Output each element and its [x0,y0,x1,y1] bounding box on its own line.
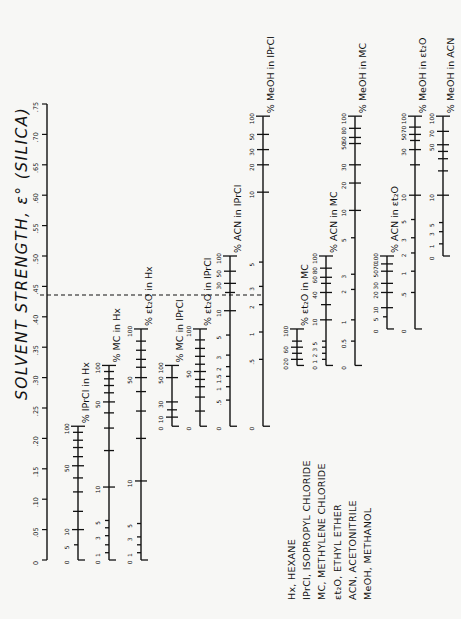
scale-tick-label: 40 [312,291,318,299]
scale-tick-label: 1 [401,272,407,276]
scale-title: % MeOH in ACN [445,38,456,113]
scale-tick-label: 100 [401,113,407,124]
scale-tick-label: 1 [341,320,347,324]
scale-tick-label: 5 [401,220,407,224]
scale-tick-label: 50 [186,370,192,378]
scale-tick-label: 1 [312,360,318,364]
scale-tick-label: 1 [95,553,101,557]
scale-tick-label: 5 [312,341,318,345]
scale-tick-label: 10 [95,486,101,494]
scale-tick-label: 5 [216,335,222,339]
scale-tick-label: 10 [158,416,164,424]
scale-acn-mc: 0123510406080100% ACN in MC [312,191,339,370]
scale-tick-label: 100 [312,253,318,264]
scale-tick-label: 1 [127,553,133,557]
main-axis-tick-label: .70 [32,132,40,142]
scale-tick-label: 2 [249,305,255,309]
scale-tick-label: 60 [312,276,318,284]
scale-tick-label: 3 [216,355,222,359]
scale-tick-label: 0 [158,427,164,431]
scale-tick-label: 5 [127,524,133,528]
chart-title: SOLVENT STRENGTH, ε° (SILICA) [13,107,31,400]
scale-title: % MeOH in MC [357,43,368,114]
scale-tick-label: 0 [341,366,347,370]
main-axis-tick-label: .25 [32,406,40,416]
scale-tick-label: 100 [249,113,255,124]
scale-tick-label: 1.5 [216,374,222,384]
scale-tick-label: 0 [401,329,407,333]
scale-tick-label: 80 [341,127,347,135]
scale-tick-label: 2 [216,367,222,371]
scale-et2o-iprcl: 050100% εt₂O in IPrCl [186,258,213,431]
scale-tick-label: 0.5 [341,339,347,349]
scale-tick-label: 50 [216,270,222,278]
scale-tick-label: .5 [249,359,255,365]
scale-tick-label: 1 [249,332,255,336]
nomogram-chart: SOLVENT STRENGTH, ε° (SILICA) 0.05.10.15… [0,0,461,619]
scale-tick-label: 100 [341,113,347,124]
scale-tick-label: 100 [373,253,379,264]
scale-tick-label: 0 [373,329,379,333]
scale-tick-label: 0 [95,560,101,564]
scale-meoh-acn: 0135105070100% MeOH in ACN [429,38,456,261]
scale-tick-label: 0 [64,560,70,564]
scale-tick-label: 60 [341,136,347,144]
scale-title: % εt₂O in MC [299,264,310,326]
scale-et2o-hx: 01351050100% εt₂O in Hx [127,266,154,564]
scale-tick-label: 30 [401,148,407,156]
scale-tick-label: 10 [429,194,435,202]
scale-tick-label: 5 [429,223,435,227]
scale-title: % ACN in MC [328,191,339,253]
scale-tick-label: 30 [158,400,164,408]
scale-tick-label: 1 [429,244,435,248]
scale-tick-label: 20 [283,358,289,366]
main-axis-tick-label: .50 [32,254,40,264]
scale-title: % MeOH in IPrCl [265,36,276,113]
scale-tick-label: 10 [64,528,70,536]
scale-tick-label: 50 [95,400,101,408]
main-axis-tick-label: .15 [32,467,40,477]
scale-tick-label: 5 [64,545,70,549]
scale-meoh-iprcl: 0.5123510203050100% MeOH in IPrCl [249,36,276,430]
scale-tick-label: 10 [127,479,133,487]
scale-tick-label: .5 [216,400,222,406]
scale-tick-label: 100 [429,113,435,124]
scale-tick-label: 20 [249,163,255,171]
scale-tick-label: 100 [127,326,133,337]
scale-tick-label: 50 [429,143,435,151]
main-axis-tick-label: 0 [32,561,40,565]
scale-tick-label: 0 [127,560,133,564]
scale-tick-label: 50 [249,133,255,141]
scale-tick-label: 60 [283,346,289,354]
chart-title-text: SOLVENT STRENGTH, ε° (SILICA) [13,107,31,400]
scale-tick-label: 5 [95,521,101,525]
main-axis-tick-label: .20 [32,436,40,446]
scale-tick-label: 3 [127,537,133,541]
scale-tick-label: 0 [429,256,435,260]
scale-tick-label: 50 [64,464,70,472]
scale-tick-label: 2 [401,253,407,257]
scale-tick-label: 5 [249,262,255,266]
scale-tick-label: 0 [249,427,255,431]
scale-tick-label: 50 [158,376,164,384]
scale-title: % ACN in εt₂O [389,186,400,253]
legend-item-acetonitrile: ACN, ACETONITRILE [345,460,360,600]
scale-tick-label: 1 [216,387,222,391]
main-axis-tick-label: .05 [32,527,40,537]
scale-title: % εt₂O in Hx [143,266,154,326]
scale-tick-label: 30 [373,282,379,290]
scale-title: % IPrCl in Hx [80,362,91,423]
scale-tick-label: 0 [216,427,222,431]
scale-tick-label: 100 [186,326,192,337]
scale-acn-et2o: 051020305070100% ACN in εt₂O [373,186,400,333]
scale-tick-label: 10 [249,191,255,199]
scale-tick-label: 3 [312,348,318,352]
scale-title: % ACN in IPrCl [232,185,243,253]
scale-mc-hx: 01351050100% MC in Hx [95,308,122,565]
scale-tick-label: 70 [401,126,407,134]
scale-tick-label: 30 [341,163,347,171]
legend-item-ethyl-ether: εt₂O, ETHYL ETHER [330,460,345,600]
scale-tick-label: 3 [401,238,407,242]
scale-tick-label: 2 [312,354,318,358]
scale-tick-label: 3 [341,275,347,279]
